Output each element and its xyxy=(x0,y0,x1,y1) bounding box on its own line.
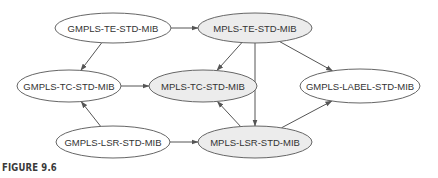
edge-mpls-lsr-to-mpls-tc xyxy=(217,101,240,126)
node-label: GMPLS-LABEL-STD-MIB xyxy=(306,81,414,92)
node-gmpls-label: GMPLS-LABEL-STD-MIB xyxy=(300,69,420,103)
node-mpls-te: MPLS-TE-STD-MIB xyxy=(198,13,312,43)
node-gmpls-te: GMPLS-TE-STD-MIB xyxy=(55,13,171,43)
node-mpls-tc: MPLS-TC-STD-MIB xyxy=(149,70,257,102)
node-label: GMPLS-LSR-STD-MIB xyxy=(64,137,161,148)
node-label: MPLS-LSR-STD-MIB xyxy=(210,137,300,148)
figure-caption: FIGURE 9.6 xyxy=(2,162,57,173)
node-label: MPLS-TC-STD-MIB xyxy=(161,81,245,92)
node-label: GMPLS-TC-STD-MIB xyxy=(23,81,114,92)
node-label: GMPLS-TE-STD-MIB xyxy=(68,23,159,34)
edge-mpls-te-to-gmpls-label xyxy=(280,42,333,71)
edge-mpls-lsr-to-gmpls-label xyxy=(282,101,332,128)
node-mpls-lsr: MPLS-LSR-STD-MIB xyxy=(198,126,312,158)
nodes: GMPLS-TE-STD-MIBMPLS-TE-STD-MIBGMPLS-TC-… xyxy=(17,13,420,158)
edge-mpls-te-to-mpls-tc xyxy=(217,43,242,71)
node-gmpls-lsr: GMPLS-LSR-STD-MIB xyxy=(56,126,170,158)
edge-gmpls-lsr-to-gmpls-tc xyxy=(81,102,101,127)
mib-dependency-diagram: GMPLS-TE-STD-MIBMPLS-TE-STD-MIBGMPLS-TC-… xyxy=(0,0,438,178)
node-gmpls-tc: GMPLS-TC-STD-MIB xyxy=(17,70,121,102)
edge-gmpls-te-to-gmpls-tc xyxy=(81,43,102,71)
node-label: MPLS-TE-STD-MIB xyxy=(213,23,296,34)
